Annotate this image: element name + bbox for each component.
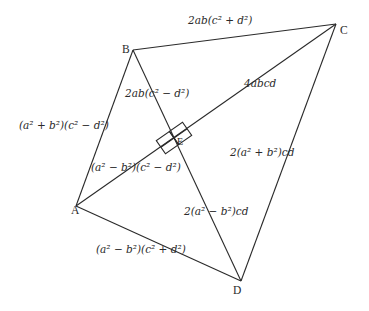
label-ab: (a² + b²)(c² − d²): [19, 120, 109, 131]
label-ad: (a² − b²)(c² + d²): [96, 244, 186, 255]
label-ae: (a² − b²)(c² − d²): [91, 162, 181, 173]
vertex-label-d: D: [233, 285, 241, 297]
label-be: 2ab(c² − d²): [125, 88, 189, 99]
label-ec: 4abcd: [244, 78, 276, 89]
right-angle-marker: [156, 122, 191, 153]
label-ed: 2(a² − b²)cd: [184, 206, 248, 217]
label-cd: 2(a² + b²)cd: [230, 147, 294, 158]
vertex-label-c: C: [340, 25, 348, 37]
label-bc: 2ab(c² + d²): [188, 15, 252, 26]
vertex-label-a: A: [71, 205, 79, 217]
vertex-label-e: E: [177, 137, 183, 147]
edge-bc: [133, 24, 336, 50]
diagonal-ac: [76, 24, 336, 206]
vertex-label-b: B: [122, 44, 130, 56]
diagram-canvas: [0, 0, 369, 311]
